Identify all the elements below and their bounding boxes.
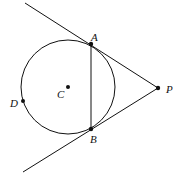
geometry-diagram: A B C D P bbox=[0, 0, 179, 182]
point-c bbox=[66, 85, 70, 89]
label-d: D bbox=[9, 97, 18, 109]
label-b: B bbox=[90, 133, 97, 145]
label-a: A bbox=[90, 31, 98, 43]
point-p bbox=[156, 86, 160, 90]
point-d bbox=[21, 99, 25, 103]
label-p: P bbox=[165, 83, 173, 95]
label-c: C bbox=[57, 88, 65, 100]
point-b bbox=[89, 127, 93, 131]
